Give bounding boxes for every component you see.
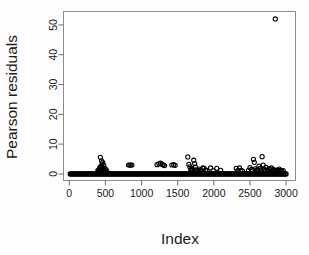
- x-axis-tick-label: 1000: [130, 187, 154, 199]
- x-axis-tick-label: 1500: [166, 187, 190, 199]
- y-axis-title: Pearson residuals: [3, 35, 20, 159]
- y-axis-tick-label: 30: [47, 79, 59, 91]
- x-axis-title: Index: [161, 230, 199, 247]
- x-axis-tick-layer: 050010001500200025003000: [66, 181, 298, 199]
- x-axis-tick-label: 2500: [238, 187, 262, 199]
- y-axis-tick-label: 0: [47, 171, 59, 177]
- x-axis-tick-label: 2000: [202, 187, 226, 199]
- pearson-residuals-plot: 01020304050 050010001500200025003000 Pea…: [0, 0, 309, 255]
- y-axis-tick-label: 50: [47, 19, 59, 31]
- x-axis-tick-label: 500: [97, 187, 115, 199]
- chart-canvas: 01020304050 050010001500200025003000 Pea…: [0, 0, 309, 255]
- x-axis-tick-label: 0: [66, 187, 72, 199]
- x-axis-tick-label: 3000: [274, 187, 298, 199]
- y-axis-tick-label: 40: [47, 49, 59, 61]
- y-axis-tick-layer: 01020304050: [47, 19, 63, 177]
- y-axis-tick-label: 10: [47, 138, 59, 150]
- y-axis-tick-label: 20: [47, 108, 59, 120]
- plot-panel-background: [63, 11, 296, 181]
